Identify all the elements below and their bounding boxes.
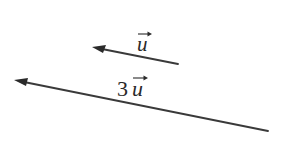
label-3u-overarrow-head (144, 76, 149, 81)
label-u: u (137, 32, 152, 57)
label-u-overarrow-head (148, 32, 153, 37)
vector-u (92, 45, 178, 64)
vector-u-arrowhead (92, 45, 106, 53)
vector-diagram: u 3 u (0, 0, 293, 142)
label-3u-symbol: u (132, 76, 143, 101)
label-u-symbol: u (137, 32, 148, 56)
vector-3u-shaft (24, 82, 268, 131)
label-3u-coefficient: 3 (117, 76, 128, 101)
vector-3u-arrowhead (14, 78, 28, 86)
label-3u: 3 u (117, 76, 148, 102)
